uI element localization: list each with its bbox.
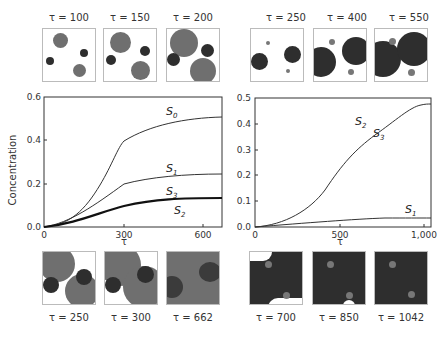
y-tick: 0.0 (27, 222, 42, 232)
y-tick: 0.3 (237, 145, 251, 155)
x-tick: 600 (194, 230, 211, 240)
series-label-s2: S2 (174, 204, 186, 219)
y-tick: 0.6 (27, 92, 42, 102)
thumb-label: τ = 150 (98, 12, 162, 23)
y-tick: 0.4 (237, 119, 252, 129)
x-axis-label: τ (337, 236, 343, 245)
concentration-chart-left: Concentration 0.0 0.2 0.4 0.6 0 300 600 … (0, 85, 230, 245)
thumb-label: τ = 250 (254, 12, 318, 23)
simulation-snapshot (166, 251, 220, 305)
thumb-label: τ = 850 (307, 312, 371, 323)
thumb-label: τ = 300 (99, 312, 163, 323)
thumb-label: τ = 1042 (369, 312, 433, 323)
thumb-label: τ = 200 (161, 12, 225, 23)
thumb-label: τ = 400 (315, 12, 379, 23)
simulation-snapshot (104, 251, 158, 305)
y-tick: 0.0 (237, 222, 252, 232)
y-tick: 0.2 (27, 179, 41, 189)
simulation-snapshot (312, 251, 366, 305)
concentration-chart-right: 0.0 0.1 0.2 0.3 0.4 0.5 0 500 1,000 τ S2… (225, 85, 447, 245)
simulation-snapshot (374, 251, 428, 305)
simulation-snapshot (103, 28, 157, 82)
thumb-label: τ = 100 (37, 12, 101, 23)
thumb-label: τ = 700 (244, 312, 308, 323)
y-tick: 0.4 (27, 135, 42, 145)
y-axis-label: Concentration (7, 135, 18, 206)
x-axis-label: τ (121, 236, 127, 245)
series-label-s0: S0 (166, 105, 178, 120)
series-label-s1: S1 (166, 162, 177, 177)
simulation-snapshot (313, 28, 367, 82)
thumb-label: τ = 662 (161, 312, 225, 323)
series-label-s3: S3 (166, 185, 177, 200)
x-tick: 0 (41, 230, 47, 240)
series-label-s2: S2 (355, 115, 367, 130)
simulation-snapshot (42, 28, 96, 82)
y-tick: 0.1 (237, 196, 251, 206)
thumb-label: τ = 550 (377, 12, 441, 23)
thumb-label: τ = 250 (37, 312, 101, 323)
series-label-s1: S1 (405, 203, 416, 218)
simulation-snapshot (250, 28, 304, 82)
x-tick: 1,000 (411, 230, 437, 240)
y-tick: 0.2 (237, 170, 251, 180)
simulation-snapshot (249, 251, 303, 305)
simulation-snapshot (42, 251, 96, 305)
y-tick: 0.5 (237, 93, 251, 103)
x-tick: 0 (252, 230, 258, 240)
simulation-snapshot (166, 28, 220, 82)
simulation-snapshot (374, 28, 428, 82)
